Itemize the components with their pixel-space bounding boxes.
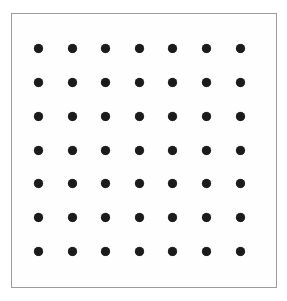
grid-dot (34, 179, 43, 188)
grid-dot (68, 179, 77, 188)
grid-dot (168, 179, 177, 188)
grid-dot (168, 146, 177, 155)
grid-dot (202, 112, 211, 121)
grid-dot (34, 44, 43, 53)
grid-dot (34, 247, 43, 256)
grid-dot (68, 112, 77, 121)
grid-dot (168, 213, 177, 222)
grid-dot (68, 247, 77, 256)
grid-dot (135, 78, 144, 87)
grid-dot (236, 112, 245, 121)
grid-dot (135, 112, 144, 121)
grid-dot (202, 44, 211, 53)
grid-dot (135, 44, 144, 53)
grid-dot (168, 247, 177, 256)
grid-dot (236, 179, 245, 188)
grid-dot (34, 213, 43, 222)
grid-dot (236, 213, 245, 222)
grid-dot (168, 112, 177, 121)
grid-dot (101, 112, 110, 121)
grid-dot (168, 44, 177, 53)
grid-dot (68, 146, 77, 155)
grid-dot (236, 78, 245, 87)
grid-dot (168, 78, 177, 87)
grid-dot (34, 146, 43, 155)
grid-dot (101, 78, 110, 87)
grid-dot (101, 44, 110, 53)
grid-dot (34, 78, 43, 87)
grid-dot (101, 213, 110, 222)
grid-dot (135, 146, 144, 155)
grid-dot (101, 179, 110, 188)
grid-dot (135, 247, 144, 256)
grid-dot (202, 78, 211, 87)
grid-dot (236, 44, 245, 53)
grid-dot (34, 112, 43, 121)
grid-dot (101, 146, 110, 155)
grid-dot (101, 247, 110, 256)
grid-dot (68, 44, 77, 53)
grid-dot (202, 247, 211, 256)
grid-dot (135, 179, 144, 188)
grid-dot (68, 213, 77, 222)
grid-dot (202, 179, 211, 188)
grid-dot (236, 146, 245, 155)
grid-dot (202, 146, 211, 155)
grid-dot (68, 78, 77, 87)
grid-dot (135, 213, 144, 222)
dot-grid (0, 0, 287, 301)
figure-canvas (0, 0, 287, 301)
grid-dot (236, 247, 245, 256)
grid-dot (202, 213, 211, 222)
